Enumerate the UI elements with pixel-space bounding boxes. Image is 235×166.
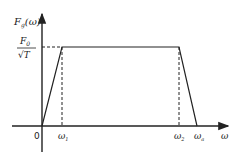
trapezoid-spectrum-diagram: Fg(ω) F0 √T 0 ω1 ω2 ωa ω (0, 0, 235, 166)
x-axis-label: ω (221, 131, 229, 141)
tick-omega-a: ωa (194, 131, 204, 142)
level-denominator: √T (18, 50, 31, 60)
level-numerator: F0 (19, 36, 30, 47)
tick-omega2: ω2 (174, 131, 185, 142)
origin-label: 0 (34, 131, 40, 141)
y-axis-label: Fg(ω) (13, 16, 41, 29)
trapezoid-curve (42, 47, 197, 126)
tick-omega1: ω1 (58, 131, 69, 142)
